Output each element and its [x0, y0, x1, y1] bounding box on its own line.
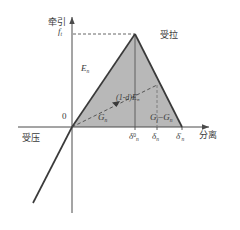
tension-region-label: 受拉 — [160, 31, 178, 40]
tick-label-delta-n: δn — [152, 132, 159, 142]
tick-label-delta-n0: δ0n — [129, 132, 139, 142]
y-axis-title: 牵引 — [48, 18, 66, 27]
y-axis-arrowhead — [69, 17, 74, 24]
area-gn-subscript: n — [105, 117, 108, 123]
delta-n-subscript: n — [156, 136, 159, 142]
delta-n-prime-subscript: n — [181, 136, 184, 142]
origin-label: 0 — [62, 112, 67, 121]
initial-stiffness-label: En — [81, 64, 89, 74]
x-axis-arrowhead — [202, 124, 209, 129]
compression-region-label: 受压 — [22, 134, 40, 143]
x-axis-title: 分离 — [199, 131, 217, 140]
damaged-stiffness-label: (1-d)En — [116, 94, 139, 103]
area-gn2-subscript: n — [170, 117, 173, 123]
delta-n0-subscript: n — [136, 136, 139, 142]
area-gn-label: Gn — [98, 113, 107, 123]
traction-separation-diagram — [0, 0, 240, 230]
initial-stiffness-subscript: n — [87, 68, 90, 74]
tick-label-delta-n-prime: δ′n — [176, 132, 184, 142]
damaged-stiffness-symbol: (1-d)E — [116, 93, 137, 102]
peak-traction-subscript: t — [61, 31, 63, 37]
damaged-stiffness-subscript: n — [137, 97, 139, 102]
peak-traction-label: ft — [58, 27, 62, 37]
area-gf-minus-gn-label: Gf−Gn — [150, 113, 172, 123]
